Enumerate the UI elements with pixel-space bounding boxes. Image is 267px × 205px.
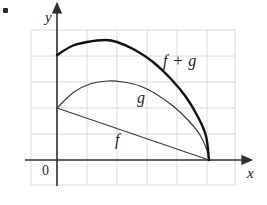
- curve-label-g: g: [137, 90, 145, 106]
- plot-canvas: [0, 0, 267, 205]
- curve-label-f-plus-g: f + g: [163, 53, 197, 69]
- x-axis-label: x: [247, 166, 254, 181]
- y-axis-label: y: [45, 10, 52, 25]
- origin-label: 0: [42, 164, 49, 178]
- curve-label-f: f: [115, 132, 119, 148]
- curve-g: [57, 81, 209, 160]
- math-figure: y x 0 f + g g f: [0, 0, 267, 205]
